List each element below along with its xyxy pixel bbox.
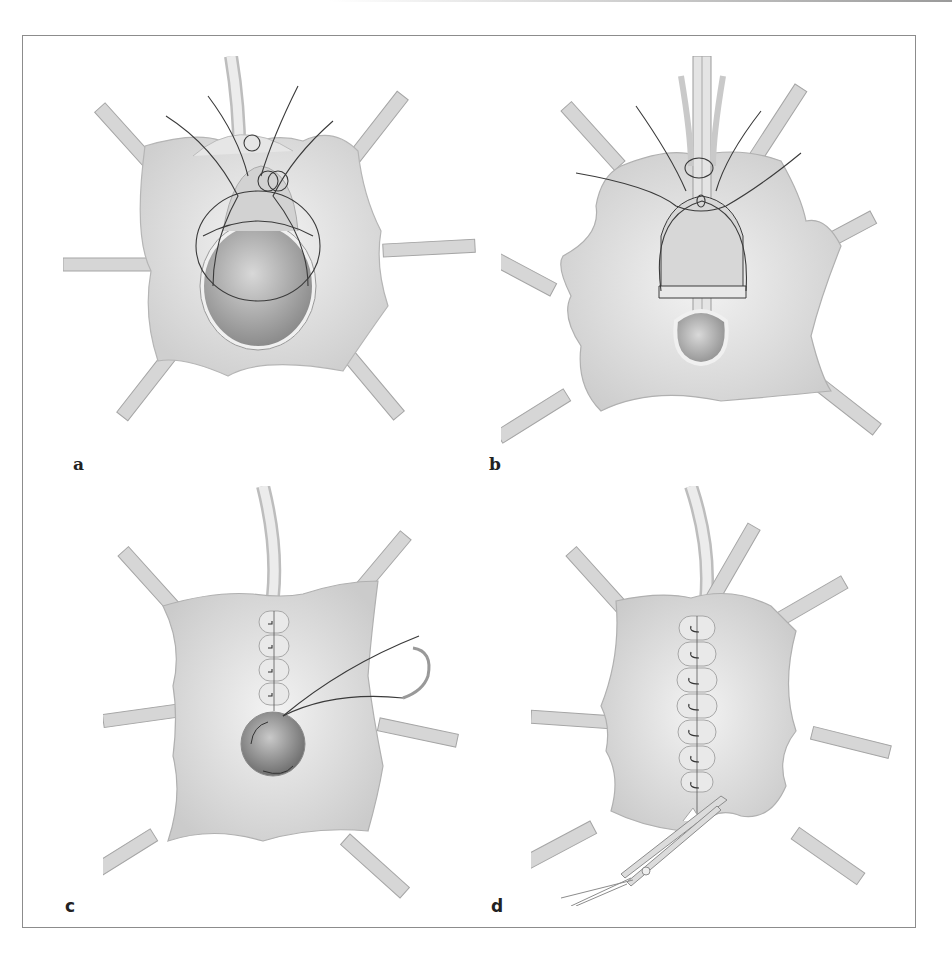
panel-label-d: d xyxy=(491,898,503,915)
panel-label-b: b xyxy=(489,456,501,473)
figure-frame: a xyxy=(22,35,916,928)
panel-d-illustration xyxy=(531,486,921,906)
page-top-rule xyxy=(330,0,952,2)
panel-a xyxy=(63,56,483,456)
panel-b xyxy=(501,56,911,456)
panel-label-c: c xyxy=(65,898,75,915)
panel-a-illustration xyxy=(63,56,483,456)
panel-label-a: a xyxy=(73,456,84,473)
panel-c xyxy=(103,486,483,906)
panel-c-illustration xyxy=(103,486,483,906)
panel-b-illustration xyxy=(501,56,911,456)
panel-d xyxy=(531,486,921,906)
